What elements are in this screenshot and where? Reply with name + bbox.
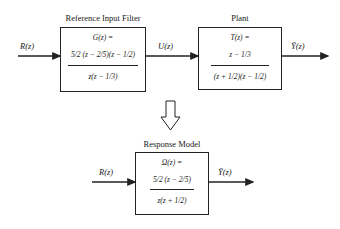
plant-lhs: T(z) =: [199, 33, 281, 42]
plant-fraction-bar: [211, 65, 269, 66]
model-fraction-bar: [150, 189, 194, 190]
filter-fraction-bar: [68, 65, 138, 66]
output-signal-label-bottom: Ȳ(z): [218, 167, 232, 177]
filter-lhs: G(z) =: [61, 33, 145, 42]
intermediate-signal-label: U(z): [158, 41, 173, 51]
output-signal-label-top: Ȳ(z): [291, 41, 305, 51]
input-signal-label-top: R(z): [20, 41, 34, 51]
model-denominator: z(z + 1/2): [136, 196, 208, 205]
filter-title: Reference Input Filter: [53, 13, 153, 23]
model-numerator: 5/2 (z − 2/5): [136, 175, 208, 184]
response-model-title: Response Model: [130, 139, 214, 149]
filter-block: G(z) = 5/2 (z − 2/5)(z − 1/2) z(z − 1/3): [60, 27, 146, 92]
plant-denominator: (z + 1/2)(z − 1/2): [199, 72, 281, 81]
plant-numerator: z − 1/3: [199, 50, 281, 59]
filter-numerator: 5/2 (z − 2/5)(z − 1/2): [61, 50, 145, 59]
plant-block: T(z) = z − 1/3 (z + 1/2)(z − 1/2): [198, 27, 282, 90]
hollow-down-arrow-icon: [161, 101, 180, 130]
model-lhs: Ω(z) =: [136, 158, 208, 167]
filter-denominator: z(z − 1/3): [61, 72, 145, 81]
input-signal-label-bottom: R(z): [99, 167, 113, 177]
response-model-block: Ω(z) = 5/2 (z − 2/5) z(z + 1/2): [135, 152, 209, 215]
plant-title: Plant: [200, 13, 280, 23]
